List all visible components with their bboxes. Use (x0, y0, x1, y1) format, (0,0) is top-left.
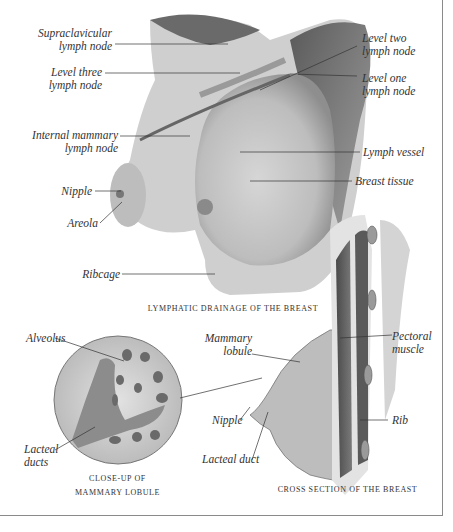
label-pectoral-muscle: Pectoral muscle (392, 330, 432, 356)
label-text: lymph node (0, 142, 118, 155)
label-rib: Rib (392, 414, 408, 427)
label-text: Level one (362, 72, 415, 85)
label-text: muscle (392, 343, 432, 356)
label-text: Supraclavicular (20, 27, 112, 40)
label-areola: Areola (20, 217, 98, 230)
label-supraclavicular-lymph-node: Supraclavicular lymph node (20, 27, 112, 53)
label-internal-mammary-lymph-node: Internal mammary lymph node (0, 129, 118, 155)
label-lacteal-ducts: Lacteal ducts (24, 443, 59, 469)
label-breast-tissue: Breast tissue (355, 175, 414, 188)
label-lymph-vessel: Lymph vessel (363, 146, 424, 159)
label-text: Lacteal (24, 443, 59, 456)
label-text: ducts (24, 456, 59, 469)
label-text: lymph node (362, 85, 415, 98)
label-text: lobule (200, 345, 252, 358)
label-nipple-cross-section: Nipple (212, 414, 243, 427)
label-level-one-lymph-node: Level one lymph node (362, 72, 415, 98)
label-text: Mammary (200, 332, 252, 345)
label-level-three-lymph-node: Level three lymph node (20, 66, 102, 92)
label-text: lymph node (362, 45, 415, 58)
caption-cross-section: Cross section of the breast (255, 485, 440, 494)
label-text: Level two (362, 32, 415, 45)
label-text: lymph node (20, 79, 102, 92)
lobule-closeup-drawing (54, 336, 182, 464)
caption-closeup-line2: Mammary lobule (60, 488, 175, 497)
label-lacteal-duct: Lacteal duct (202, 453, 259, 466)
label-text: Level three (20, 66, 102, 79)
label-alveolus: Alveolus (26, 332, 66, 345)
caption-closeup-line1: Close-up of (60, 474, 175, 483)
label-mammary-lobule: Mammary lobule (200, 332, 252, 358)
label-text: Pectoral (392, 330, 432, 343)
label-level-two-lymph-node: Level two lymph node (362, 32, 415, 58)
label-text: Internal mammary (0, 129, 118, 142)
label-nipple: Nipple (20, 185, 92, 198)
label-ribcage: Ribcage (40, 268, 120, 281)
label-text: lymph node (20, 40, 112, 53)
caption-lymphatic-drainage: Lymphatic drainage of the breast (133, 304, 333, 313)
